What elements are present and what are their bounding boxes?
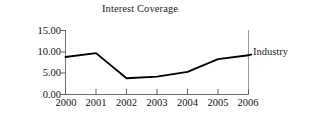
chart-container: Interest Coverage 15.00: [0, 0, 309, 125]
series-line-industry: [66, 53, 249, 78]
x-tick-label-2005: 2005: [208, 97, 229, 108]
x-tick-marks: [66, 89, 249, 95]
x-tick-label-2001: 2001: [86, 97, 107, 108]
x-tick-label-2003: 2003: [147, 97, 168, 108]
y-tick-label-15: 15.00: [14, 25, 61, 36]
y-tick-label-5: 5.00: [14, 67, 61, 78]
x-tick-label-2002: 2002: [116, 97, 137, 108]
y-tick-marks: [61, 31, 66, 95]
x-axis-labels: 2000 2001 2002 2003 2004 2005 2006: [0, 97, 309, 117]
x-tick-label-2000: 2000: [56, 97, 77, 108]
series-label-industry: Industry: [253, 46, 288, 57]
x-tick-label-2006: 2006: [238, 97, 259, 108]
series-label-leader: [249, 54, 253, 55]
y-tick-label-10: 10.00: [14, 46, 61, 57]
x-tick-label-2004: 2004: [177, 97, 198, 108]
